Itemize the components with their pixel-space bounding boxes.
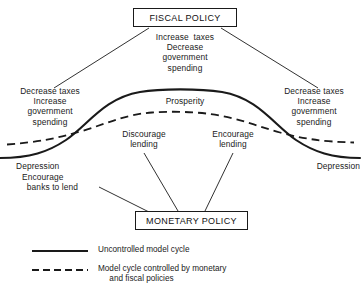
label-right-decrease-taxes-increase-spending: Decrease taxes Increase government spend… <box>268 86 360 127</box>
legend-item-controlled: Model cycle controlled by monetary and f… <box>30 264 226 284</box>
legend-label-uncontrolled: Uncontrolled model cycle <box>98 245 189 255</box>
connector-encourage-lending <box>205 153 233 211</box>
label-increase-taxes-decrease-spending: Increase taxes Decrease government spend… <box>133 32 237 73</box>
label-prosperity: Prosperity <box>152 96 218 106</box>
label-encourage-lending: Encourage lending <box>199 129 267 149</box>
legend-solid-line-icon <box>30 245 90 257</box>
fiscal-monetary-policy-diagram: FISCAL POLICY MONETARY POLICY Increase t… <box>0 0 362 286</box>
legend-item-uncontrolled: Uncontrolled model cycle <box>30 245 189 257</box>
connector-discourage-lending <box>144 153 178 211</box>
label-encourage-banks-to-lend: Encourage banks to lend <box>22 172 132 192</box>
monetary-policy-label: MONETARY POLICY <box>145 216 238 226</box>
legend-label-controlled: Model cycle controlled by monetary and f… <box>98 264 226 284</box>
fiscal-policy-box[interactable]: FISCAL POLICY <box>133 8 237 27</box>
fiscal-policy-label: FISCAL POLICY <box>148 13 221 23</box>
label-depression-right: Depression <box>280 161 360 171</box>
label-depression-left: Depression <box>16 161 96 171</box>
label-left-decrease-taxes-increase-spending: Decrease taxes Increase government spend… <box>4 86 96 127</box>
monetary-policy-box[interactable]: MONETARY POLICY <box>135 211 248 230</box>
label-discourage-lending: Discourage lending <box>110 129 178 149</box>
legend-dashed-line-icon <box>30 264 90 276</box>
